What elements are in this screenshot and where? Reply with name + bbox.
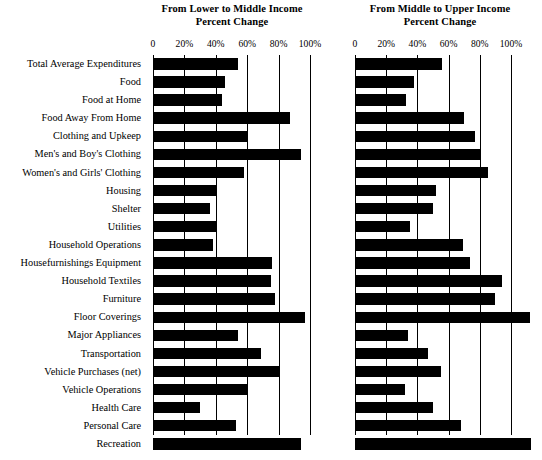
bar — [355, 420, 461, 431]
bar — [153, 293, 275, 304]
bar — [153, 94, 222, 105]
panel-title-left-line1: From Lower to Middle Income — [152, 3, 312, 16]
chart-panel-middle-to-upper — [355, 55, 530, 435]
bar — [153, 131, 247, 142]
panel-title-right-line2: Percent Change — [350, 16, 530, 29]
plot-area-right — [355, 55, 530, 435]
bar — [153, 438, 301, 449]
bar-row — [153, 73, 310, 91]
bar — [153, 149, 301, 160]
bar — [153, 203, 210, 214]
bar-row — [355, 145, 530, 163]
bar — [355, 275, 502, 286]
category-label: Vehicle Purchases (net) — [0, 363, 147, 381]
bar-row — [153, 417, 310, 435]
bar-row — [355, 236, 530, 254]
bar — [153, 348, 261, 359]
bar-row — [153, 363, 310, 381]
bar-row — [153, 145, 310, 163]
category-label: Housing — [0, 182, 147, 200]
bar-row — [153, 326, 310, 344]
bar — [153, 239, 213, 250]
bar — [355, 366, 441, 377]
category-label: Transportation — [0, 345, 147, 363]
bar-row — [355, 91, 530, 109]
bar-row — [153, 55, 310, 73]
bar-row — [153, 127, 310, 145]
bar — [153, 384, 247, 395]
bar-row — [355, 127, 530, 145]
bar-row — [153, 345, 310, 363]
category-label: Women's and Girls' Clothing — [0, 164, 147, 182]
x-tick-label: 40% — [409, 38, 427, 50]
category-label: Recreation — [0, 435, 147, 453]
bar — [355, 312, 530, 323]
x-tick-label: 20% — [377, 38, 395, 50]
bar-row — [355, 73, 530, 91]
bar-row — [153, 381, 310, 399]
bar — [355, 402, 433, 413]
bar — [153, 76, 225, 87]
bar — [355, 167, 488, 178]
bar — [355, 203, 433, 214]
bar — [153, 257, 272, 268]
bar-row — [355, 164, 530, 182]
panel-title-right: From Middle to Upper Income Percent Chan… — [350, 3, 530, 28]
bar — [355, 149, 481, 160]
panel-title-left: From Lower to Middle Income Percent Chan… — [152, 3, 312, 28]
bar-row — [153, 91, 310, 109]
bar — [355, 112, 464, 123]
bar-row — [355, 290, 530, 308]
bar-row — [355, 381, 530, 399]
bar-row — [355, 254, 530, 272]
x-tick-label: 80% — [471, 38, 489, 50]
bar — [355, 58, 442, 69]
category-label: Housefurnishings Equipment — [0, 254, 147, 272]
category-label: Utilities — [0, 218, 147, 236]
x-tick-label: 0 — [151, 38, 156, 50]
bar-row — [153, 272, 310, 290]
bar — [355, 94, 406, 105]
gridline-100 — [310, 55, 311, 435]
bar-row — [153, 308, 310, 326]
bar-row — [153, 399, 310, 417]
bar-row — [355, 435, 530, 453]
bar — [153, 112, 290, 123]
bar-row — [355, 308, 530, 326]
bar-row — [153, 218, 310, 236]
x-tick-label: 80% — [270, 38, 288, 50]
bar-row — [153, 435, 310, 453]
bar — [153, 58, 238, 69]
category-label: Furniture — [0, 290, 147, 308]
category-label: Shelter — [0, 200, 147, 218]
category-label: Personal Care — [0, 417, 147, 435]
bar — [153, 366, 279, 377]
bar — [355, 348, 428, 359]
bar-row — [153, 290, 310, 308]
bar-row — [153, 254, 310, 272]
category-label: Men's and Boy's Clothing — [0, 145, 147, 163]
bar — [355, 239, 463, 250]
category-label-column: Total Average ExpendituresFoodFood at Ho… — [0, 55, 147, 453]
bar — [153, 330, 238, 341]
category-label: Food at Home — [0, 91, 147, 109]
bar — [355, 293, 495, 304]
bar — [355, 131, 475, 142]
bar-row — [355, 345, 530, 363]
bar-row — [355, 182, 530, 200]
bar-row — [355, 218, 530, 236]
bar-row — [153, 109, 310, 127]
bar — [355, 438, 531, 449]
x-axis-left: 020%40%60%80%100% — [153, 38, 310, 52]
bar-row — [355, 363, 530, 381]
chart-panel-lower-to-middle — [153, 55, 310, 435]
chart-figure: From Lower to Middle Income Percent Chan… — [0, 0, 542, 460]
bar-row — [153, 200, 310, 218]
panel-title-left-line2: Percent Change — [152, 16, 312, 29]
bar — [153, 275, 271, 286]
x-tick-label: 40% — [207, 38, 225, 50]
bar-row — [153, 164, 310, 182]
bar-row — [355, 417, 530, 435]
category-label: Major Appliances — [0, 326, 147, 344]
bar — [355, 76, 414, 87]
